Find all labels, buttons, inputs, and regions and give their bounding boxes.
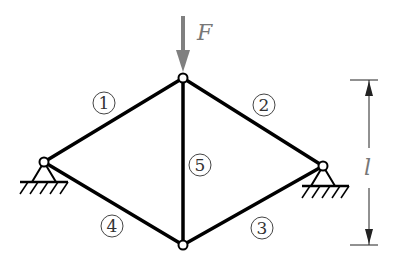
joint-left bbox=[40, 158, 49, 167]
svg-text:4: 4 bbox=[107, 216, 118, 236]
truss-diagram: F 1 2 3 4 5 l bbox=[0, 0, 393, 266]
svg-text:2: 2 bbox=[259, 95, 270, 115]
joint-right bbox=[319, 162, 328, 171]
member-label-1: 1 bbox=[93, 92, 115, 114]
svg-text:3: 3 bbox=[257, 218, 268, 238]
svg-text:1: 1 bbox=[99, 93, 110, 113]
member-2 bbox=[183, 78, 323, 166]
joint-bottom bbox=[179, 241, 188, 250]
member-label-5: 5 bbox=[189, 154, 211, 176]
force-label: F bbox=[196, 20, 213, 45]
member-label-4: 4 bbox=[101, 215, 123, 237]
joint-top bbox=[179, 74, 188, 83]
svg-text:5: 5 bbox=[195, 155, 206, 175]
member-3 bbox=[183, 166, 323, 245]
force-arrow-icon bbox=[176, 16, 190, 72]
truss-members bbox=[44, 78, 323, 245]
member-label-3: 3 bbox=[251, 217, 273, 239]
length-label: l bbox=[364, 155, 371, 180]
member-1 bbox=[44, 78, 183, 162]
member-label-2: 2 bbox=[253, 94, 275, 116]
